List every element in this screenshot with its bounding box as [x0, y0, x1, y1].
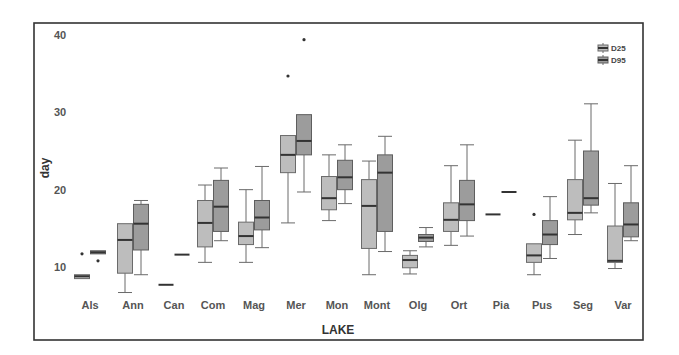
y-axis-ticks: 10203040 [54, 29, 66, 273]
box-d25-com [198, 185, 213, 262]
x-category-label: Com [201, 299, 226, 311]
box-d25-var [608, 183, 623, 268]
box-d25-mer [281, 74, 296, 223]
box-d95-als [91, 251, 106, 263]
x-category-label: Pus [532, 299, 552, 311]
box-d25-ort [444, 166, 459, 246]
outlier-point [80, 252, 83, 255]
y-tick-label: 30 [54, 106, 66, 118]
x-category-label: Ort [451, 299, 468, 311]
box-d95-ann [134, 200, 149, 274]
legend-label: D95 [611, 56, 626, 65]
legend-item-d25: D25 [598, 43, 626, 53]
box-d25-pus [527, 213, 542, 275]
box-d95-mag [255, 166, 270, 247]
box-groups [75, 38, 639, 292]
box-d95-var [624, 166, 639, 241]
x-category-label: Seg [573, 299, 593, 311]
box-d95-seg [584, 104, 599, 213]
x-category-label: Mag [243, 299, 265, 311]
outlier-point [96, 259, 99, 262]
box-d95-mon [338, 145, 353, 204]
x-category-label: Mont [364, 299, 391, 311]
box-d25-mon [322, 155, 337, 221]
x-category-label: Mon [326, 299, 349, 311]
box-d25-mont [362, 161, 377, 275]
y-tick-label: 10 [54, 261, 66, 273]
x-category-label: Pia [493, 299, 510, 311]
x-category-label: Mer [286, 299, 306, 311]
x-category-label: Var [614, 299, 632, 311]
box-d95-mer [297, 38, 312, 192]
y-axis-title: day [38, 157, 52, 178]
box-d95-olg [419, 228, 434, 247]
x-category-label: Can [164, 299, 185, 311]
box-d25-als [75, 252, 90, 278]
box-d95-mont [378, 136, 393, 251]
y-tick-label: 40 [54, 29, 66, 41]
x-axis-category-labels: AlsAnnCanComMagMerMonMontOlgOrtPiaPusSeg… [81, 299, 632, 311]
legend-label: D25 [611, 44, 626, 53]
legend-item-d95: D95 [598, 55, 626, 65]
box-d25-seg [568, 140, 583, 234]
y-tick-label: 20 [54, 184, 66, 196]
outlier-point [302, 38, 305, 41]
box-d95-pus [543, 197, 558, 259]
outlier-point [286, 74, 289, 77]
box-d25-olg [403, 251, 418, 274]
x-axis-title: LAKE [322, 323, 355, 337]
box-d95-com [214, 168, 229, 241]
box-d95-ort [460, 145, 475, 236]
x-category-label: Ann [122, 299, 144, 311]
box-d25-mag [239, 190, 254, 263]
outlier-point [532, 213, 535, 216]
box-d25-ann [118, 224, 133, 293]
x-category-label: Olg [409, 299, 427, 311]
legend: D25D95 [598, 43, 626, 65]
boxplot-chart: 10203040 day AlsAnnCanComMagMerMonMontOl… [0, 0, 679, 355]
x-category-label: Als [81, 299, 98, 311]
